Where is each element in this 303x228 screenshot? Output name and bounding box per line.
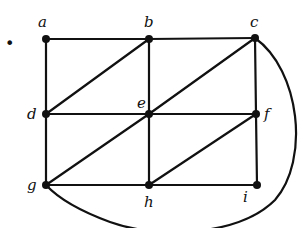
node-a [42, 35, 50, 43]
edge-b-c [149, 38, 255, 39]
edge-c-f [255, 38, 256, 114]
graph-curved-edges [46, 38, 296, 228]
node-label-h: h [144, 193, 154, 211]
node-c [251, 34, 259, 42]
edge-e-c [149, 38, 255, 114]
graph-diagram: • abcdefghi [0, 0, 303, 228]
node-e [145, 110, 153, 118]
node-g [42, 181, 50, 189]
node-label-a: a [38, 13, 47, 31]
edge-g-e [46, 114, 149, 185]
node-label-e: e [137, 94, 146, 112]
node-label-d: d [27, 105, 37, 123]
node-d [42, 110, 50, 118]
node-b [145, 35, 153, 43]
node-f [252, 110, 260, 118]
node-label-i: i [243, 188, 248, 206]
node-label-f: f [263, 105, 272, 123]
edge-h-f [149, 114, 256, 185]
node-label-b: b [144, 13, 154, 31]
edge-d-b [46, 39, 149, 114]
node-i [253, 181, 261, 189]
node-label-g: g [27, 176, 37, 194]
curved-edge-c-g [46, 38, 296, 228]
node-label-c: c [250, 13, 259, 31]
list-bullet: • [5, 34, 14, 53]
edge-f-i [256, 114, 257, 185]
node-h [145, 181, 153, 189]
